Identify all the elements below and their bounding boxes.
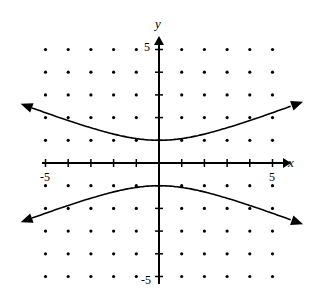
arrowhead-icon	[21, 213, 34, 222]
arrowhead-icon	[290, 101, 303, 110]
x-min-label: -5	[40, 170, 50, 184]
x-max-label: 5	[269, 170, 275, 184]
y-max-label: 5	[144, 40, 150, 54]
lower-branch-curve	[32, 186, 291, 220]
arrowhead-icon	[290, 215, 303, 224]
x-axis-label: x	[287, 155, 294, 170]
y-axis-label: y	[153, 16, 161, 31]
upper-branch-curve	[32, 106, 291, 140]
y-axis-arrow-icon	[154, 36, 164, 45]
graph: x y -5 5 5 -5	[0, 0, 312, 300]
y-min-label: -5	[141, 273, 151, 287]
arrowhead-icon	[21, 103, 34, 112]
